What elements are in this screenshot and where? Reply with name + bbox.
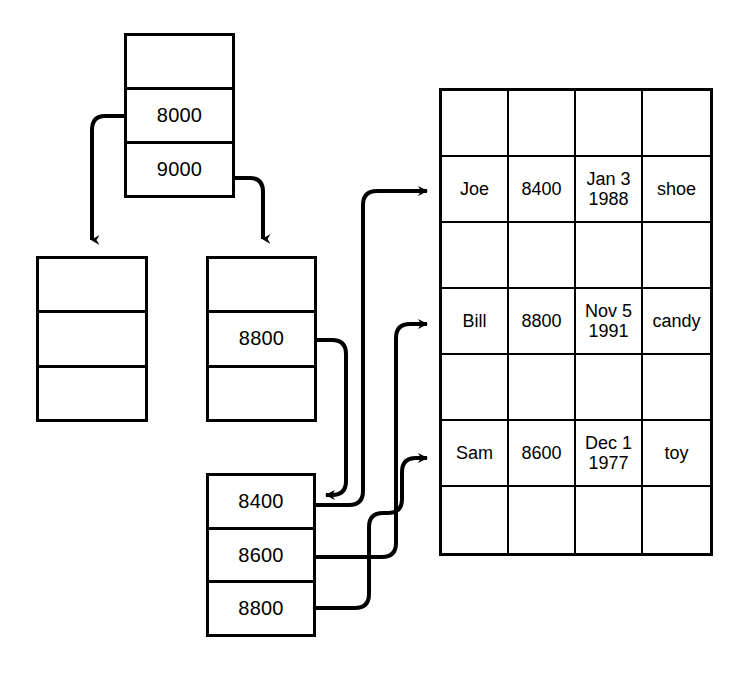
table-record-cell: Dec 1 1977 — [576, 421, 643, 487]
connector-root-9000-to-middle-node — [235, 178, 263, 239]
table-spacer-cell — [576, 223, 643, 289]
pointer-structure-diagram: 8000 9000 8800 8400 8600 8800 Joe8400Jan… — [0, 0, 747, 681]
connector-bottom-8400-to-joe-row — [316, 191, 427, 505]
table-record-cell: 8600 — [509, 421, 576, 487]
table-record-cell: Joe — [442, 157, 509, 223]
records-table: Joe8400Jan 3 1988shoeBill8800Nov 5 1991c… — [439, 88, 713, 556]
table-record-cell: shoe — [643, 157, 710, 223]
middle-node-cell-2 — [209, 365, 314, 419]
table-spacer-cell — [643, 487, 710, 553]
middle-node-cell-0 — [209, 259, 314, 310]
connector-bottom-8600-to-bill-row — [316, 324, 427, 557]
table-spacer-cell — [442, 91, 509, 157]
table-spacer-cell — [442, 355, 509, 421]
table-record-cell: candy — [643, 289, 710, 355]
table-spacer-cell — [643, 355, 710, 421]
left-leaf-node-cell-0 — [39, 259, 145, 310]
bottom-leaf-node: 8400 8600 8800 — [206, 473, 316, 637]
bottom-leaf-node-cell-0: 8400 — [209, 476, 313, 527]
table-record-cell: Bill — [442, 289, 509, 355]
table-spacer-cell — [643, 223, 710, 289]
root-node-cell-0 — [127, 36, 232, 87]
bottom-leaf-node-cell-1: 8600 — [209, 527, 313, 581]
table-spacer-cell — [643, 91, 710, 157]
table-record-cell: Jan 3 1988 — [576, 157, 643, 223]
table-spacer-cell — [509, 355, 576, 421]
left-leaf-node — [36, 256, 148, 422]
left-leaf-node-cell-1 — [39, 310, 145, 364]
table-spacer-cell — [576, 91, 643, 157]
connector-root-8000-to-left-node — [92, 116, 124, 240]
table-spacer-cell — [576, 487, 643, 553]
table-record-cell: Sam — [442, 421, 509, 487]
table-spacer-cell — [442, 223, 509, 289]
middle-node: 8800 — [206, 256, 317, 422]
middle-node-cell-1: 8800 — [209, 310, 314, 364]
table-spacer-cell — [442, 487, 509, 553]
table-spacer-cell — [509, 223, 576, 289]
root-node-cell-1: 8000 — [127, 87, 232, 141]
table-spacer-cell — [576, 355, 643, 421]
root-node: 8000 9000 — [124, 33, 235, 198]
table-record-cell: 8400 — [509, 157, 576, 223]
table-spacer-cell — [509, 487, 576, 553]
connector-middle-8800-to-bottom-node — [317, 340, 346, 495]
table-record-cell: toy — [643, 421, 710, 487]
root-node-cell-2: 9000 — [127, 141, 232, 195]
left-leaf-node-cell-2 — [39, 365, 145, 419]
connector-bottom-8800-to-sam-row — [316, 458, 427, 608]
table-spacer-cell — [509, 91, 576, 157]
table-record-cell: 8800 — [509, 289, 576, 355]
bottom-leaf-node-cell-2: 8800 — [209, 580, 313, 634]
table-record-cell: Nov 5 1991 — [576, 289, 643, 355]
